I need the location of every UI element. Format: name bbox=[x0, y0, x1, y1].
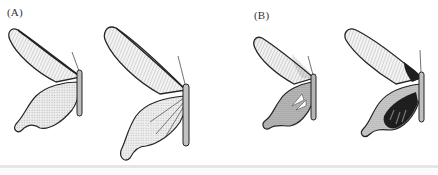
bottom-margin bbox=[0, 168, 438, 175]
butterfly-a2-illustration bbox=[100, 22, 195, 167]
butterfly-mimicry-figure: (A) bbox=[0, 0, 438, 165]
butterfly-a1-illustration bbox=[6, 24, 88, 136]
panel-b-label: (B) bbox=[254, 9, 269, 21]
panel-a-label: (A) bbox=[7, 6, 23, 18]
butterfly-b2-illustration bbox=[342, 26, 428, 140]
butterfly-b1-illustration bbox=[252, 34, 322, 136]
